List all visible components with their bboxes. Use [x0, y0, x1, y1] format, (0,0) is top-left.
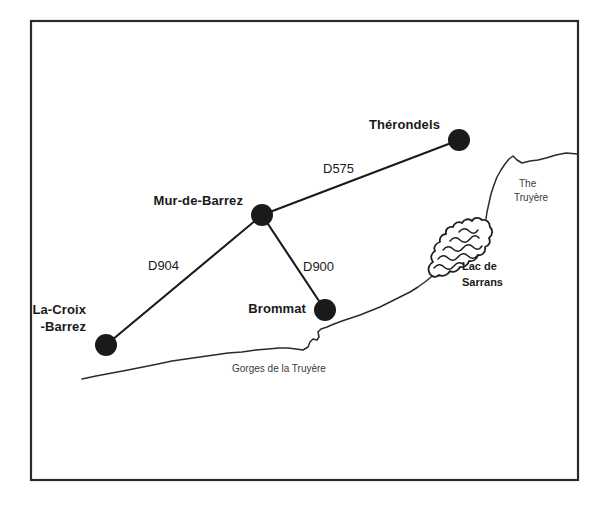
town-label-la-croix-barrez-line2: -Barrez: [41, 319, 87, 334]
map-frame-border: [31, 21, 578, 480]
water-label-the-truyere-line1: The: [519, 178, 537, 189]
water-label-lac-de-sarrans-line2: Sarrans: [462, 276, 503, 288]
town-dot-mur-de-barrez[interactable]: [251, 204, 273, 226]
town-dot-brommat[interactable]: [314, 299, 336, 321]
town-label-mur-de-barrez: Mur-de-Barrez: [154, 193, 244, 208]
map-canvas: Thérondels Mur-de-Barrez La-Croix -Barre…: [0, 0, 600, 508]
water-label-the-truyere-line2: Truyère: [514, 192, 549, 203]
town-dot-therondels[interactable]: [448, 129, 470, 151]
town-label-therondels: Thérondels: [369, 117, 440, 132]
road-d575-line: [262, 140, 459, 215]
town-label-la-croix-barrez-line1: La-Croix: [32, 302, 86, 317]
map-figure: Thérondels Mur-de-Barrez La-Croix -Barre…: [0, 0, 600, 508]
water-label-lac-de-sarrans-line1: Lac de: [462, 260, 497, 272]
road-d904-line: [106, 215, 262, 345]
water-label-gorges-de-la-truyere: Gorges de la Truyère: [232, 363, 326, 374]
town-label-brommat: Brommat: [248, 301, 306, 316]
road-label-d904: D904: [148, 258, 179, 273]
town-dot-la-croix-barrez[interactable]: [95, 334, 117, 356]
road-label-d575: D575: [323, 161, 354, 176]
road-label-d900: D900: [303, 259, 334, 274]
